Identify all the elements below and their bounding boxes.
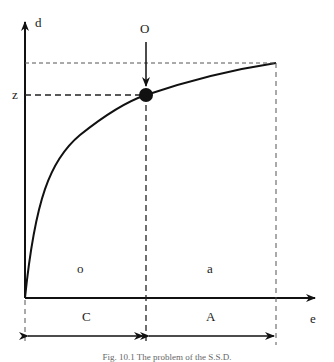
span-left-label: C bbox=[82, 310, 91, 323]
y-axis-label: d bbox=[35, 16, 42, 29]
figure-caption: Fig. 10.1 The problem of the S.S.D. bbox=[0, 352, 334, 362]
diagram-canvas bbox=[0, 0, 334, 362]
operating-point-dot bbox=[139, 88, 153, 102]
region-right-label: a bbox=[207, 262, 213, 275]
point-label: O bbox=[140, 22, 149, 35]
span-right-label: A bbox=[206, 310, 215, 323]
region-left-label: o bbox=[77, 262, 84, 275]
z-label: z bbox=[12, 88, 18, 101]
x-axis-label: e bbox=[310, 312, 316, 325]
